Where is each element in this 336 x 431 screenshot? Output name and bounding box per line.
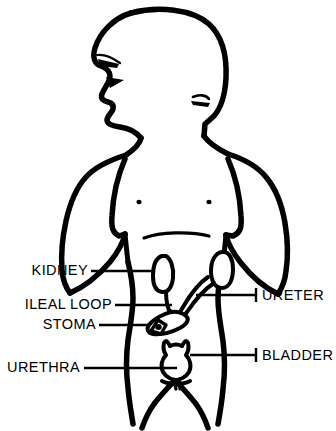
urethra-tube-outer: [179, 379, 180, 389]
ear: [193, 95, 209, 99]
right-shoulder-arm: [228, 154, 287, 294]
bladder-organ: [162, 341, 191, 380]
left-torso-flank: [112, 159, 125, 236]
left-kidney-organ: [153, 256, 173, 292]
ear-inner: [191, 101, 210, 107]
label-stoma: STOMA: [43, 316, 96, 332]
head-outline: [131, 9, 226, 136]
neck-back: [204, 136, 228, 154]
label-ileal-loop: ILEAL LOOP: [25, 296, 112, 312]
anatomical-diagram: KIDNEY ILEAL LOOP STOMA URETHRA URETER B…: [0, 0, 336, 431]
label-bladder: BLADDER: [262, 347, 333, 363]
face-profile: [94, 13, 141, 138]
left-hand: [125, 234, 128, 262]
label-urethra: URETHRA: [7, 359, 80, 375]
label-ureter: URETER: [262, 287, 324, 303]
right-nipple: [206, 200, 211, 204]
neck-front: [126, 138, 141, 155]
stoma-opening: [155, 324, 161, 330]
right-leg-inner: [178, 383, 208, 428]
abdomen-crease: [144, 233, 209, 238]
left-waist-hip: [127, 262, 134, 424]
label-kidney: KIDNEY: [32, 262, 88, 278]
right-torso-flank: [226, 159, 241, 236]
left-leg-inner: [142, 383, 172, 428]
ureter-junction-dot: [169, 309, 173, 313]
diagram-canvas: KIDNEY ILEAL LOOP STOMA URETHRA URETER B…: [0, 0, 336, 431]
left-nipple: [136, 200, 141, 204]
